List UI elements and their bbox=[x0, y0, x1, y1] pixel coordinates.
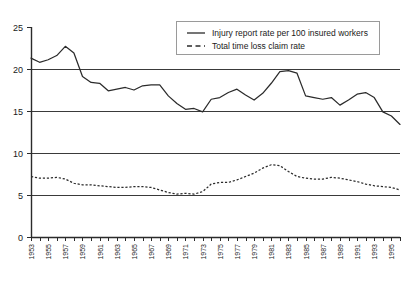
x-tick-label-1995: 1995 bbox=[388, 244, 395, 260]
x-tick-label-1969: 1969 bbox=[165, 244, 172, 260]
x-tick-label-1981: 1981 bbox=[268, 244, 275, 260]
x-tick-label-1965: 1965 bbox=[131, 244, 138, 260]
y-tick-label-5: 5 bbox=[18, 191, 23, 201]
legend-label-time-loss-claim-rate: Total time loss claim rate bbox=[212, 41, 305, 51]
x-tick-label-1953: 1953 bbox=[28, 244, 35, 260]
x-tick-label-1991: 1991 bbox=[354, 244, 361, 260]
y-tick-label-0: 0 bbox=[18, 233, 23, 243]
series-line-injury-report-rate bbox=[31, 46, 400, 124]
x-tick-label-1985: 1985 bbox=[303, 244, 310, 260]
legend-item-time-loss-claim-rate: Total time loss claim rate bbox=[186, 40, 305, 52]
chart-container: 0510152025 19531955195719591961196319651… bbox=[0, 0, 414, 281]
x-tick-label-1979: 1979 bbox=[251, 244, 258, 260]
chart-legend: Injury report rate per 100 insured worke… bbox=[176, 21, 380, 55]
legend-item-injury-report-rate: Injury report rate per 100 insured worke… bbox=[186, 27, 368, 39]
y-tick-label-10: 10 bbox=[13, 149, 23, 159]
x-tick-label-1961: 1961 bbox=[97, 244, 104, 260]
legend-label-injury-report-rate: Injury report rate per 100 insured worke… bbox=[212, 28, 368, 38]
legend-dashed-line-icon bbox=[186, 41, 206, 51]
x-tick-label-1971: 1971 bbox=[182, 244, 189, 260]
data-series bbox=[31, 46, 400, 194]
x-tick-label-1989: 1989 bbox=[337, 244, 344, 260]
y-tick-label-20: 20 bbox=[13, 65, 23, 75]
x-tick-label-1973: 1973 bbox=[200, 244, 207, 260]
gridlines bbox=[31, 70, 400, 196]
x-tick-label-1955: 1955 bbox=[45, 244, 52, 260]
axes bbox=[31, 27, 400, 238]
x-tick-label-1963: 1963 bbox=[114, 244, 121, 260]
series-line-time-loss-claim-rate bbox=[31, 165, 400, 194]
x-tick-label-1977: 1977 bbox=[234, 244, 241, 260]
legend-solid-line-icon bbox=[186, 28, 206, 38]
y-tick-label-25: 25 bbox=[13, 23, 23, 33]
x-axis-tick-labels: 1953195519571959196119631965196719691971… bbox=[28, 244, 395, 260]
x-tick-label-1987: 1987 bbox=[320, 244, 327, 260]
x-tick-label-1959: 1959 bbox=[79, 244, 86, 260]
y-tick-label-15: 15 bbox=[13, 107, 23, 117]
x-tick-label-1983: 1983 bbox=[285, 244, 292, 260]
x-tick-label-1975: 1975 bbox=[217, 244, 224, 260]
x-tick-label-1993: 1993 bbox=[371, 244, 378, 260]
y-axis-tick-labels: 0510152025 bbox=[13, 23, 23, 243]
x-tick-label-1967: 1967 bbox=[148, 244, 155, 260]
y-axis-ticks bbox=[27, 28, 31, 238]
x-tick-label-1957: 1957 bbox=[62, 244, 69, 260]
